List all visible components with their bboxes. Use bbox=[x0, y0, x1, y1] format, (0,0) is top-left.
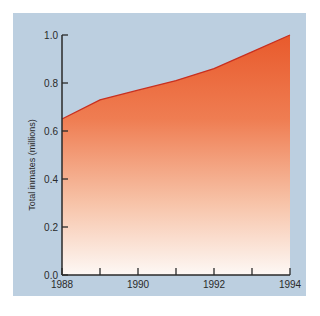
area-fill bbox=[62, 35, 290, 275]
y-tick-label: 0.2 bbox=[44, 222, 58, 233]
x-tick-label: 1992 bbox=[203, 279, 226, 290]
y-tick-label: 1.0 bbox=[44, 30, 58, 41]
y-tick-label: 0.8 bbox=[44, 78, 58, 89]
area-chart: 0.00.20.40.60.81.01988199019921994Total … bbox=[0, 0, 320, 316]
y-axis-title: Total inmates (millions) bbox=[27, 119, 37, 211]
y-tick-label: 0.4 bbox=[44, 174, 58, 185]
y-tick-label: 0.6 bbox=[44, 126, 58, 137]
x-tick-label: 1990 bbox=[127, 279, 150, 290]
x-tick-label: 1994 bbox=[279, 279, 302, 290]
x-tick-label: 1988 bbox=[51, 279, 74, 290]
